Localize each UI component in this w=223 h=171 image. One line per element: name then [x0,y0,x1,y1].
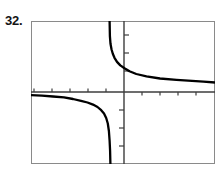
problem-number-label: 32. [5,13,22,28]
graph-panel [31,21,215,164]
graph-svg [31,21,215,164]
exercise-figure: 32. [0,0,223,171]
